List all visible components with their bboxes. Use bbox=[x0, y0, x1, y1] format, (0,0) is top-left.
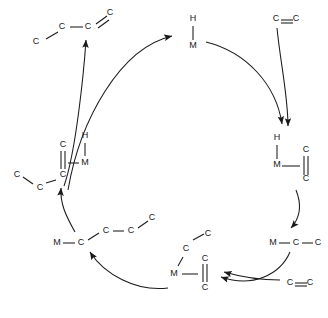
arrow-beta-hydride-elimination bbox=[61, 188, 75, 232]
atom-carbon: C bbox=[101, 226, 111, 235]
atom-carbon: C bbox=[301, 145, 311, 154]
reaction-cycle-diagram: C C C C H M C C H M C C M C C C C C C M … bbox=[0, 0, 328, 318]
atom-carbon: C bbox=[200, 283, 210, 292]
atom-carbon: C bbox=[76, 238, 86, 247]
arrow-insertion-to-ethyl bbox=[291, 190, 299, 228]
atom-carbon: C bbox=[31, 37, 41, 46]
atom-metal: M bbox=[188, 41, 198, 50]
atom-carbon: C bbox=[291, 238, 301, 247]
atom-metal: M bbox=[80, 158, 90, 167]
atom-hydrogen: H bbox=[80, 131, 90, 140]
atom-hydrogen: H bbox=[272, 133, 282, 142]
atom-carbon: C bbox=[57, 22, 67, 31]
atom-carbon: C bbox=[200, 254, 210, 263]
arrow-ethylene-coordination-top bbox=[277, 28, 288, 126]
atom-carbon: C bbox=[203, 229, 213, 238]
arrow-metal-hydride-to-complex bbox=[206, 42, 282, 124]
atom-metal: M bbox=[268, 238, 278, 247]
atom-carbon: C bbox=[147, 213, 157, 222]
atom-carbon: C bbox=[271, 14, 281, 23]
atom-metal: M bbox=[52, 238, 62, 247]
atom-carbon: C bbox=[105, 8, 115, 17]
atom-carbon: C bbox=[291, 14, 301, 23]
atom-carbon: C bbox=[12, 170, 22, 179]
atom-carbon: C bbox=[285, 278, 295, 287]
atom-carbon: C bbox=[126, 226, 136, 235]
atom-carbon: C bbox=[301, 174, 311, 183]
atom-carbon: C bbox=[35, 183, 45, 192]
atom-carbon: C bbox=[58, 170, 68, 179]
atom-carbon: C bbox=[58, 140, 68, 149]
atom-hydrogen: H bbox=[188, 14, 198, 23]
atom-carbon: C bbox=[83, 22, 93, 31]
atom-carbon: C bbox=[181, 244, 191, 253]
bonds-product-alkene bbox=[46, 16, 109, 39]
arrow-chain-growth bbox=[90, 252, 168, 289]
atom-carbon: C bbox=[305, 278, 315, 287]
arrow-ethyl-to-complex bbox=[221, 252, 290, 281]
atom-metal: M bbox=[272, 160, 282, 169]
atom-carbon: C bbox=[313, 238, 323, 247]
bonds-beta-hydride-complex bbox=[23, 143, 85, 184]
atom-metal: M bbox=[169, 269, 179, 278]
